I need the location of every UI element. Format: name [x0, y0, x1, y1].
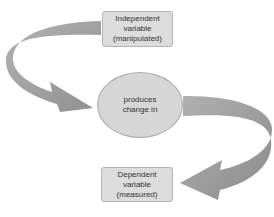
curved-arrow-left — [6, 21, 101, 112]
curved-arrow-right — [180, 96, 272, 200]
dependent-variable-box: Dependent variable (measured) — [101, 167, 173, 202]
independent-variable-box: Independent variable (manipulated) — [102, 11, 173, 47]
dependent-line-3: (measured) — [117, 190, 158, 200]
independent-line-1: Independent — [113, 14, 162, 24]
relation-line-1: produces — [123, 95, 158, 105]
independent-line-3: (manipulated) — [113, 34, 162, 44]
independent-line-2: variable — [113, 24, 162, 34]
dependent-line-2: variable — [117, 180, 158, 190]
relation-line-2: change in — [123, 105, 158, 115]
dependent-line-1: Dependent — [117, 170, 158, 180]
produces-change-circle: produces change in — [97, 72, 183, 138]
